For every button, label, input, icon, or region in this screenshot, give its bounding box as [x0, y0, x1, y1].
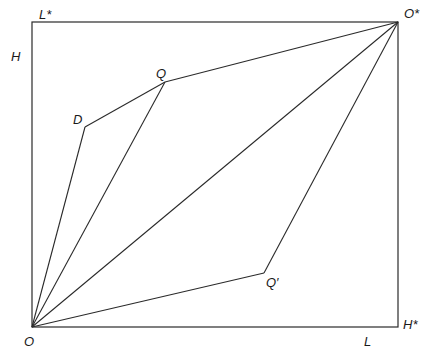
- segment-O-Qprime: [32, 273, 264, 327]
- label-D: D: [73, 113, 82, 126]
- label-O: O: [24, 335, 34, 348]
- segment-O-Q: [32, 82, 165, 327]
- label-L: L: [364, 335, 371, 348]
- segment-Qprime-Ostar: [264, 22, 398, 273]
- label-Q: Q: [156, 67, 166, 80]
- segment-Q-Ostar: [165, 22, 398, 82]
- label-H-star: H*: [403, 318, 417, 331]
- segment-O-D: [32, 127, 85, 327]
- segment-O-Ostar-diagonal: [32, 22, 398, 327]
- label-O-star: O*: [404, 7, 419, 20]
- label-Q-prime: Q′: [266, 276, 279, 289]
- label-H: H: [11, 50, 20, 63]
- label-L-star: L*: [39, 8, 51, 21]
- edgeworth-box-diagram: [0, 0, 427, 355]
